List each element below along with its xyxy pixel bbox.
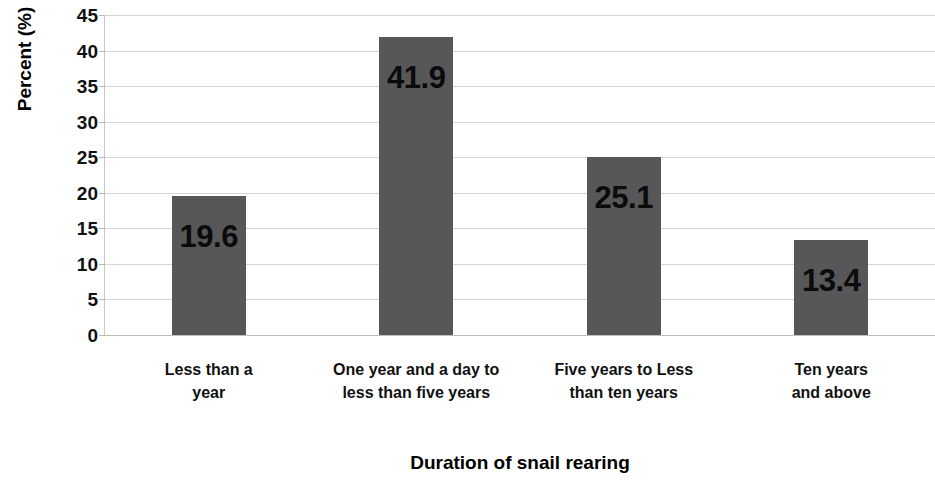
gridline — [105, 157, 935, 158]
y-axis-tick-mark — [99, 51, 105, 52]
x-axis-category-labels: Less than ayearOne year and a day toless… — [105, 358, 935, 428]
x-axis-category-label: Less than ayear — [105, 358, 313, 404]
y-axis-tick-mark — [99, 15, 105, 16]
y-axis-tick-mark — [99, 157, 105, 158]
y-axis-tick-label: 25 — [44, 148, 98, 167]
y-axis-tick-label: 20 — [44, 184, 98, 203]
y-axis-tick-labels: 454035302520151050 — [44, 0, 98, 360]
plot-area: 19.641.925.113.4 — [105, 15, 935, 335]
y-axis-tick-label: 5 — [44, 290, 98, 309]
x-axis-category-label-line: Ten years — [728, 358, 935, 381]
y-axis-tick-label: 30 — [44, 113, 98, 132]
gridline — [105, 335, 935, 336]
bar-value-label: 13.4 — [784, 265, 878, 296]
bar-value-label: 41.9 — [369, 62, 463, 93]
x-axis-category-label: Ten yearsand above — [728, 358, 935, 404]
y-axis-tick-mark — [99, 335, 105, 336]
x-axis-category-label-line: year — [105, 381, 313, 404]
x-axis-title: Duration of snail rearing — [105, 452, 935, 474]
x-axis-category-label-line: Less than a — [105, 358, 313, 381]
y-axis-tick-label: 45 — [44, 6, 98, 25]
y-axis-tick-mark — [99, 193, 105, 194]
y-axis-tick-mark — [99, 228, 105, 229]
x-axis-category-label: One year and a day toless than five year… — [313, 358, 521, 404]
y-axis-tick-label: 10 — [44, 255, 98, 274]
x-axis-category-label-line: than ten years — [520, 381, 728, 404]
x-axis-category-label: Five years to Lessthan ten years — [520, 358, 728, 404]
bar — [172, 196, 246, 335]
y-axis-tick-mark — [99, 299, 105, 300]
y-axis-title-container: Percent (%) — [8, 80, 42, 310]
x-axis-category-label-line: less than five years — [313, 381, 521, 404]
x-axis-category-label-line: One year and a day to — [313, 358, 521, 381]
gridline — [105, 15, 935, 16]
gridline — [105, 86, 935, 87]
y-axis-tick-label: 35 — [44, 77, 98, 96]
bar-value-label: 25.1 — [577, 182, 671, 213]
gridline — [105, 51, 935, 52]
y-axis-tick-mark — [99, 122, 105, 123]
x-axis-category-label-line: Five years to Less — [520, 358, 728, 381]
x-axis-category-label-line: and above — [728, 381, 935, 404]
y-axis-tick-label: 0 — [44, 326, 98, 345]
y-axis-tick-label: 40 — [44, 42, 98, 61]
gridline — [105, 193, 935, 194]
y-axis-tick-label: 15 — [44, 219, 98, 238]
gridline — [105, 122, 935, 123]
bar-chart: Percent (%) 454035302520151050 19.641.92… — [0, 0, 935, 488]
y-axis-title: Percent (%) — [8, 0, 42, 174]
y-axis-tick-mark — [99, 264, 105, 265]
bar-value-label: 19.6 — [162, 221, 256, 252]
y-axis-tick-mark — [99, 86, 105, 87]
